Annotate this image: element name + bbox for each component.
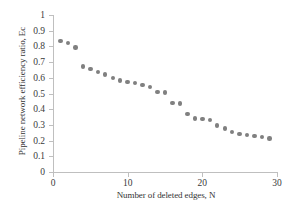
data-point (96, 70, 100, 74)
x-axis-tick-label: 10 (116, 178, 140, 188)
data-point (178, 101, 182, 105)
data-point (133, 81, 137, 85)
x-axis-tick-label: 30 (265, 178, 289, 188)
y-axis-tick-label: 0.1 (19, 151, 45, 161)
data-point (260, 135, 264, 139)
x-axis-tick-mark (277, 173, 278, 177)
y-axis-tick-label: 0.4 (19, 104, 45, 114)
x-axis-tick-label: 20 (190, 178, 214, 188)
data-point (193, 116, 197, 120)
data-point (81, 64, 85, 68)
data-point (237, 132, 241, 136)
y-axis-tick-label: 0.6 (19, 73, 45, 83)
y-axis-tick-label: 0.8 (19, 41, 45, 51)
plot-area (53, 15, 277, 172)
x-axis-line (53, 172, 278, 173)
data-point (170, 101, 174, 105)
y-axis-tick-label: 0.7 (19, 57, 45, 67)
data-point (252, 134, 256, 138)
data-point (267, 136, 271, 140)
data-point (140, 83, 144, 87)
data-point (73, 45, 77, 49)
x-axis-title: Number of deleted edges, N (53, 190, 279, 200)
data-point (88, 67, 92, 71)
y-axis-tick-label: 0.2 (19, 136, 45, 146)
y-axis-tick-label: 0 (19, 167, 45, 177)
data-point (185, 112, 189, 116)
x-axis-tick-mark (128, 173, 129, 177)
x-axis-tick-label: 0 (41, 178, 65, 188)
y-axis-tick-label: 0.3 (19, 120, 45, 130)
data-point (66, 41, 70, 45)
x-axis-tick-mark (53, 173, 54, 177)
data-point (155, 90, 159, 94)
data-point (125, 80, 129, 84)
data-point (111, 76, 115, 80)
data-point (148, 85, 152, 89)
data-point (208, 118, 212, 122)
data-point (215, 123, 219, 127)
data-point (103, 72, 107, 76)
data-point (230, 130, 234, 134)
data-point (163, 90, 167, 94)
data-point (200, 117, 204, 121)
x-axis-tick-mark (202, 173, 203, 177)
data-point (245, 133, 249, 137)
data-point (58, 39, 62, 43)
chart-figure: Pipeline network efficiency ratio, Ec 00… (0, 0, 292, 214)
data-point (118, 78, 122, 82)
y-axis-tick-label: 1 (19, 10, 45, 20)
y-axis-tick-label: 0.9 (19, 26, 45, 36)
data-point (223, 126, 227, 130)
y-axis-tick-label: 0.5 (19, 89, 45, 99)
